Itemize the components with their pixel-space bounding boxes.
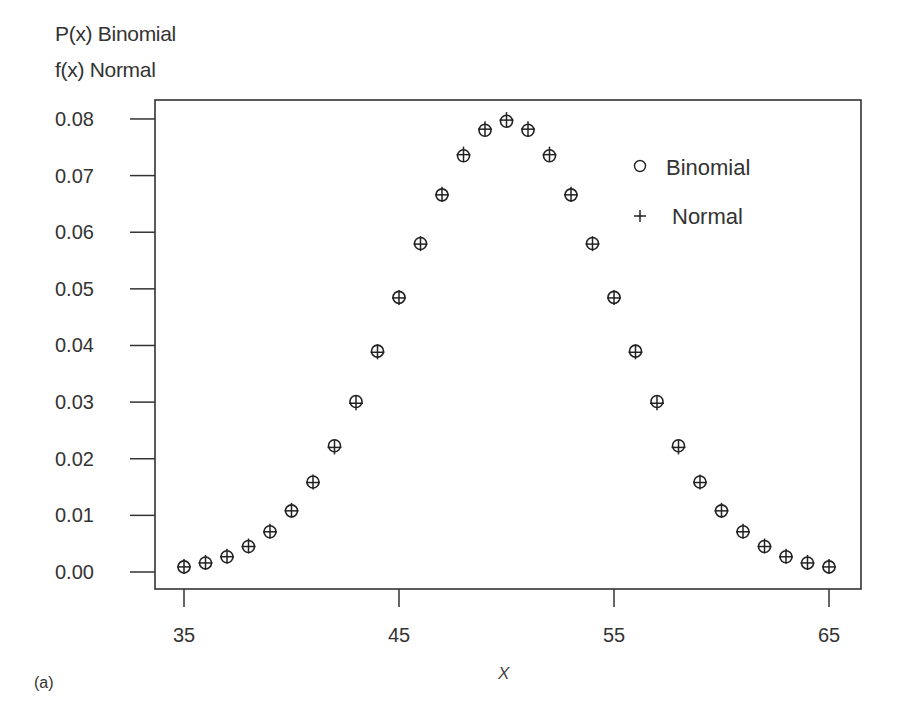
legend-normal-label: Normal — [672, 204, 743, 229]
y-tick-label: 0.03 — [55, 391, 94, 413]
y-tick-label: 0.00 — [55, 561, 94, 583]
y-tick-label: 0.05 — [55, 278, 94, 300]
y-tick-label: 0.01 — [55, 504, 94, 526]
x-tick-label: 45 — [388, 624, 410, 646]
y-tick-label: 0.04 — [55, 334, 94, 356]
y-axis: 0.000.010.020.030.040.050.060.070.08 — [55, 108, 155, 583]
panel-label: (a) — [34, 674, 54, 692]
y-tick-label: 0.08 — [55, 108, 94, 130]
data-points — [177, 112, 836, 574]
legend-binomial-marker-icon — [635, 161, 646, 172]
x-tick-label: 55 — [603, 624, 625, 646]
legend-binomial-label: Binomial — [666, 155, 750, 180]
y-tick-label: 0.02 — [55, 448, 94, 470]
x-axis: 35455565 — [173, 589, 840, 646]
x-axis-label: X — [498, 664, 509, 684]
x-tick-label: 35 — [173, 624, 195, 646]
y-tick-label: 0.06 — [55, 221, 94, 243]
y-tick-label: 0.07 — [55, 165, 94, 187]
x-tick-label: 65 — [818, 624, 840, 646]
legend: BinomialNormal — [634, 155, 750, 229]
chart-plot-area: 0.000.010.020.030.040.050.060.070.08 354… — [0, 0, 900, 727]
plot-frame — [155, 100, 861, 589]
